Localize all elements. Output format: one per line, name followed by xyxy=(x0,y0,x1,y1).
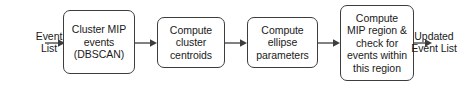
edge-centroids-to-ellipse xyxy=(225,36,247,50)
flowchart-diagram: Event List Cluster MIP events (DBSCAN) C… xyxy=(0,0,464,87)
node-compute-mip-region[interactable]: Compute MIP region & check for events wi… xyxy=(340,5,414,81)
edge-ellipse-to-region xyxy=(318,36,340,50)
node-compute-cluster-centroids[interactable]: Compute cluster centroids xyxy=(157,17,225,68)
output-label-updated-event-list: Updated Event List xyxy=(404,30,464,55)
node-compute-ellipse-parameters[interactable]: Compute ellipse parameters xyxy=(247,17,318,68)
node-cluster-mip-events[interactable]: Cluster MIP events (DBSCAN) xyxy=(63,10,135,74)
edge-cluster-to-centroids xyxy=(135,36,157,50)
